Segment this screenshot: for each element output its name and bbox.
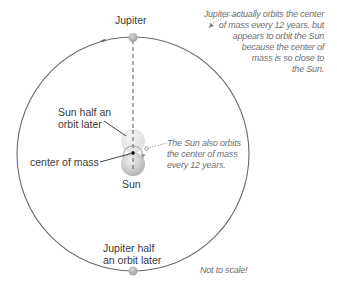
center-of-mass-dot xyxy=(131,151,135,155)
sun-half-orbit-label-line2: orbit later xyxy=(58,118,102,130)
not-to-scale-note: Not to scale! xyxy=(200,265,247,276)
note-line: appears to orbit the Sun xyxy=(184,31,324,42)
jupiter-half-orbit-label-line1: Jupiter half xyxy=(103,242,154,254)
note-line: the center of mass xyxy=(167,149,241,160)
note-line: the Sun. xyxy=(184,64,324,75)
jupiter-half-orbit-label-line2: an orbit later xyxy=(103,254,161,266)
note-line: mass is so close to xyxy=(184,53,324,64)
jupiter xyxy=(129,33,138,42)
center-of-mass-label: center of mass xyxy=(30,156,99,168)
sun-half-orbit-leader xyxy=(104,121,126,136)
note-line: of mass every 12 years, but xyxy=(184,20,324,31)
sun-orbit-note: The Sun also orbits the center of mass e… xyxy=(167,138,241,171)
sun-note-leader xyxy=(148,143,167,148)
jupiter-orbit-note: Jupiter actually orbits the center of ma… xyxy=(184,9,324,75)
note-line: The Sun also orbits xyxy=(167,138,241,149)
note-line: because the center of xyxy=(184,42,324,53)
sun-label: Sun xyxy=(122,178,141,190)
note-line: Jupiter actually orbits the center xyxy=(184,9,324,20)
jupiter-half-orbit xyxy=(129,267,138,276)
sun-note-arrow-icon xyxy=(145,147,149,151)
note-line: every 12 years. xyxy=(167,160,241,171)
sun-half-orbit-label-line1: Sun half an xyxy=(58,106,111,118)
jupiter-label: Jupiter xyxy=(115,14,147,26)
